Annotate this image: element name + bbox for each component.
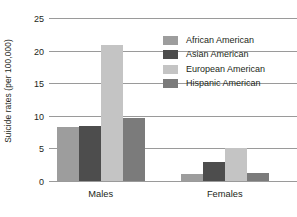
legend-label: Hispanic American <box>186 79 261 88</box>
legend: African AmericanAsian AmericanEuropean A… <box>163 33 297 91</box>
legend-label: African American <box>186 36 254 45</box>
y-tick-label-5: 5 <box>39 145 44 154</box>
legend-item-african-american[interactable]: African American <box>163 33 297 48</box>
legend-item-asian-american[interactable]: Asian American <box>163 48 297 63</box>
bar-females-european-american <box>225 148 247 181</box>
legend-swatch-icon <box>163 65 178 74</box>
y-tick-label-20: 20 <box>34 47 44 56</box>
bar-males-asian-american <box>79 126 101 181</box>
legend-swatch-icon <box>163 79 178 88</box>
legend-label: European American <box>186 65 265 74</box>
bar-females-asian-american <box>203 162 225 181</box>
y-tick-label-0: 0 <box>39 178 44 187</box>
legend-swatch-icon <box>163 50 178 59</box>
group-label-males: Males <box>88 189 113 199</box>
bar-females-hispanic-american <box>247 173 269 181</box>
legend-label: Asian American <box>186 50 249 59</box>
legend-item-european-american[interactable]: European American <box>163 62 297 77</box>
y-tick-label-25: 25 <box>34 15 44 24</box>
legend-swatch-icon <box>163 36 178 45</box>
gridline-10 <box>49 116 297 117</box>
bar-females-african-american <box>181 174 203 181</box>
y-tick-label-10: 10 <box>34 112 44 121</box>
bar-males-european-american <box>101 45 123 181</box>
y-tick-label-15: 15 <box>34 80 44 89</box>
gridline-25 <box>49 18 297 19</box>
bar-males-hispanic-american <box>123 118 145 181</box>
y-axis-title: Suicide rates (per 100,000) <box>0 0 16 182</box>
x-axis-baseline <box>49 181 297 182</box>
suicide-rates-bar-chart: Suicide rates (per 100,000) 0510152025 M… <box>0 0 297 217</box>
group-label-females: Females <box>207 189 243 199</box>
y-axis-title-text: Suicide rates (per 100,000) <box>3 39 13 143</box>
bar-males-african-american <box>57 127 79 181</box>
legend-item-hispanic-american[interactable]: Hispanic American <box>163 77 297 92</box>
